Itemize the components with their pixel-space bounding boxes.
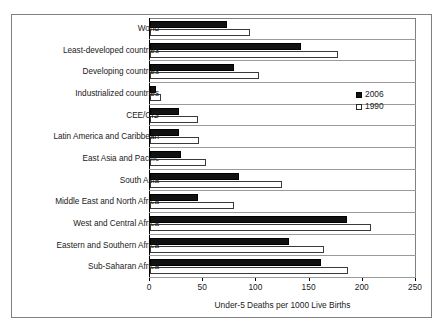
bar-1990[interactable]	[150, 202, 234, 209]
legend-item-1990[interactable]: 1990	[356, 101, 384, 112]
bar-group-row	[149, 191, 416, 213]
category-label: South Asia	[29, 176, 159, 185]
bar-group-row	[149, 235, 416, 257]
bar-group-row	[149, 18, 416, 40]
value-axis-title: Under-5 Deaths per 1000 Live Births	[149, 300, 416, 310]
bar-2006[interactable]	[150, 43, 301, 50]
bar-2006[interactable]	[150, 259, 321, 266]
value-tick-mark	[309, 278, 310, 281]
bar-group-row	[149, 61, 416, 83]
bar-1990[interactable]	[150, 224, 371, 231]
value-tick-mark	[202, 278, 203, 281]
plot-area: 050100150200250	[149, 18, 416, 278]
value-tick-label: 50	[198, 282, 207, 292]
category-label: World	[29, 24, 159, 33]
value-tick-label: 250	[408, 282, 422, 292]
legend-swatch-hollow-square-icon	[356, 104, 362, 110]
value-tick-label: 100	[248, 282, 262, 292]
category-label: Middle East and North Africa	[29, 197, 159, 206]
category-label: Industrialized countries	[29, 89, 159, 98]
value-tick-label: 200	[355, 282, 369, 292]
bar-2006[interactable]	[150, 21, 227, 28]
legend-label: 1990	[365, 102, 384, 111]
category-label: West and Central Africa	[29, 219, 159, 228]
bar-1990[interactable]	[150, 267, 348, 274]
figure-frame: 050100150200250 WorldLeast-developed cou…	[11, 14, 432, 318]
legend-swatch-filled-square-icon	[356, 92, 362, 98]
category-label: Developing countries	[29, 67, 159, 76]
bar-1990[interactable]	[150, 246, 324, 253]
category-label: Latin America and Caribbean	[29, 132, 159, 141]
value-tick-mark	[255, 278, 256, 281]
legend-label: 2006	[365, 90, 384, 99]
bar-group-row	[149, 256, 416, 278]
bar-group-row	[149, 213, 416, 235]
bar-1990[interactable]	[150, 72, 259, 79]
bar-2006[interactable]	[150, 64, 234, 71]
category-label: Sub-Saharan Africa	[29, 262, 159, 271]
category-gridline	[149, 277, 416, 278]
bar-2006[interactable]	[150, 238, 289, 245]
bar-1990[interactable]	[150, 51, 338, 58]
value-tick-label: 0	[147, 282, 152, 292]
category-label: East Asia and Pacific	[29, 154, 159, 163]
bar-group-row	[149, 148, 416, 170]
bar-1990[interactable]	[150, 29, 250, 36]
value-tick-mark	[415, 278, 416, 281]
bar-1990[interactable]	[150, 181, 282, 188]
bar-group-row	[149, 126, 416, 148]
bar-2006[interactable]	[150, 216, 347, 223]
value-tick-mark	[362, 278, 363, 281]
value-tick-mark	[149, 278, 150, 281]
value-tick-label: 150	[302, 282, 316, 292]
category-label: CEE/CIS	[29, 111, 159, 120]
chart-legend: 2006 1990	[356, 89, 384, 113]
category-label: Eastern and Southern Africa	[29, 241, 159, 250]
legend-item-2006[interactable]: 2006	[356, 89, 384, 100]
bar-group-row	[149, 40, 416, 62]
category-label: Least-developed countries	[29, 46, 159, 55]
bar-2006[interactable]	[150, 173, 239, 180]
bar-group-row	[149, 170, 416, 192]
